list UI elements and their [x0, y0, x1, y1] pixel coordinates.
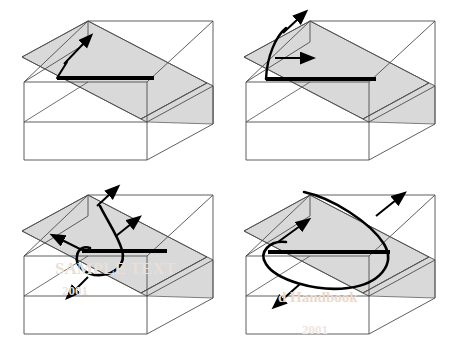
panel-stage-4-drawing: d Handbook 2001	[230, 174, 459, 348]
glide-direction-arrow-upper-right	[376, 200, 396, 216]
panel-stage-2	[230, 0, 459, 174]
panel-stage-2-drawing	[230, 0, 459, 174]
crystal-box-b	[244, 21, 435, 160]
panel-stage-1	[0, 0, 229, 174]
watermark-panel-c-line2: 2001	[62, 283, 88, 298]
crystal-box-a	[22, 21, 213, 160]
figure-root: SAMPLE TEXT 2001	[0, 0, 459, 348]
panel-stage-3: SAMPLE TEXT 2001	[0, 174, 229, 348]
panel-stage-4: d Handbook 2001	[230, 174, 459, 348]
watermark-panel-d-line2: 2001	[302, 322, 328, 337]
panel-stage-3-drawing: SAMPLE TEXT 2001	[0, 174, 229, 348]
crystal-box-d	[244, 195, 435, 334]
panel-stage-1-drawing	[0, 0, 229, 174]
watermark-panel-d-line1: d Handbook	[278, 289, 358, 305]
watermark-panel-c-line1: SAMPLE TEXT	[55, 259, 177, 278]
